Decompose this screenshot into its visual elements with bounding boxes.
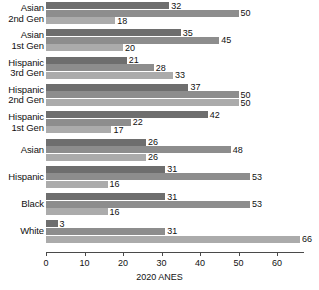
x-axis-tick-label: 50 xyxy=(233,258,243,268)
x-axis-tick-label: 20 xyxy=(118,258,128,268)
bar-row: 31 xyxy=(46,166,313,173)
bar-group: Asian 2nd Gen325018 xyxy=(0,2,319,24)
bar-value-label: 18 xyxy=(115,15,127,25)
bar-row: 48 xyxy=(46,146,313,153)
plot-area: Asian 2nd Gen325018Asian 1st Gen354520Hi… xyxy=(0,0,319,290)
grouped-bar-chart: Asian 2nd Gen325018Asian 1st Gen354520Hi… xyxy=(0,0,319,290)
bar-row: 21 xyxy=(46,57,313,64)
x-axis-title: 2020 ANES xyxy=(0,272,319,282)
x-axis-tick-label: 40 xyxy=(195,258,205,268)
bar-stack: 315316 xyxy=(46,166,319,188)
bar xyxy=(46,72,173,79)
bar xyxy=(46,201,250,208)
bar-group: Hispanic315316 xyxy=(0,166,319,188)
bar xyxy=(46,99,239,106)
bar-row: 31 xyxy=(46,228,313,235)
bar-group: Hispanic 1st Gen422217 xyxy=(0,111,319,133)
bar-value-label: 50 xyxy=(239,97,251,107)
category-label: Hispanic 3rd Gen xyxy=(2,57,44,78)
x-axis-tick xyxy=(277,252,278,256)
bar xyxy=(46,44,123,51)
bar-value-label: 26 xyxy=(146,152,158,162)
category-label: Asian xyxy=(2,144,44,155)
x-axis-tick xyxy=(239,252,240,256)
bar xyxy=(46,193,165,200)
bar xyxy=(46,29,181,36)
bar-row: 16 xyxy=(46,181,313,188)
bar xyxy=(46,84,188,91)
bar-row: 26 xyxy=(46,139,313,146)
x-axis-tick-label: 0 xyxy=(43,258,48,268)
bar-row: 22 xyxy=(46,119,313,126)
bar xyxy=(46,208,108,215)
bar-stack: 422217 xyxy=(46,111,319,133)
bar xyxy=(46,228,165,235)
category-label: Asian 2nd Gen xyxy=(2,3,44,24)
bar-row: 53 xyxy=(46,201,313,208)
bar-stack: 264826 xyxy=(46,139,319,161)
bar-row: 50 xyxy=(46,91,313,98)
bar-value-label: 33 xyxy=(173,70,185,80)
bar xyxy=(46,220,58,227)
category-label: Hispanic 1st Gen xyxy=(2,112,44,133)
bar xyxy=(46,111,208,118)
bar-row: 18 xyxy=(46,17,313,24)
bar xyxy=(46,126,111,133)
category-label: Asian 1st Gen xyxy=(2,30,44,51)
bar xyxy=(46,139,146,146)
bar-group: Black315316 xyxy=(0,193,319,215)
x-axis-tick xyxy=(46,252,47,256)
bar-row: 17 xyxy=(46,126,313,133)
bar xyxy=(46,17,115,24)
bar-row: 35 xyxy=(46,29,313,36)
bar-row: 33 xyxy=(46,72,313,79)
category-label: Hispanic xyxy=(2,172,44,183)
bar-stack: 212833 xyxy=(46,57,319,79)
category-label: White xyxy=(2,226,44,237)
x-axis-tick xyxy=(200,252,201,256)
x-axis-tick-label: 10 xyxy=(79,258,89,268)
bar-row: 31 xyxy=(46,193,313,200)
bar-stack: 33166 xyxy=(46,220,319,242)
bar xyxy=(46,146,231,153)
bar-row: 16 xyxy=(46,208,313,215)
bar-row: 26 xyxy=(46,154,313,161)
bar-row: 20 xyxy=(46,44,313,51)
x-axis-tick xyxy=(162,252,163,256)
bar-group: White33166 xyxy=(0,220,319,242)
bar-row: 50 xyxy=(46,99,313,106)
category-label: Black xyxy=(2,199,44,210)
x-axis-tick xyxy=(123,252,124,256)
bar-value-label: 17 xyxy=(111,125,123,135)
x-axis-tick xyxy=(85,252,86,256)
bar-value-label: 16 xyxy=(108,207,120,217)
bar-row: 53 xyxy=(46,173,313,180)
bar xyxy=(46,64,154,71)
bar-row: 3 xyxy=(46,220,313,227)
bar xyxy=(46,2,169,9)
bar-group: Asian264826 xyxy=(0,139,319,161)
x-axis-tick-label: 30 xyxy=(156,258,166,268)
bar-stack: 375050 xyxy=(46,84,319,106)
bar xyxy=(46,91,239,98)
bar-value-label: 16 xyxy=(108,179,120,189)
bar-group: Hispanic 2nd Gen375050 xyxy=(0,84,319,106)
bar-row: 45 xyxy=(46,37,313,44)
bar-stack: 325018 xyxy=(46,2,319,24)
bar-value-label: 66 xyxy=(300,234,312,244)
bar-stack: 354520 xyxy=(46,29,319,51)
bar-row: 42 xyxy=(46,111,313,118)
bar-row: 37 xyxy=(46,84,313,91)
bar-group: Asian 1st Gen354520 xyxy=(0,29,319,51)
category-label: Hispanic 2nd Gen xyxy=(2,84,44,105)
bar xyxy=(46,166,165,173)
bar-stack: 315316 xyxy=(46,193,319,215)
x-axis-tick-label: 60 xyxy=(272,258,282,268)
bar xyxy=(46,173,250,180)
bar xyxy=(46,10,239,17)
bar-row: 66 xyxy=(46,236,313,243)
bar-group: Hispanic 3rd Gen212833 xyxy=(0,57,319,79)
bar xyxy=(46,181,108,188)
bar-row: 50 xyxy=(46,10,313,17)
bar xyxy=(46,236,300,243)
